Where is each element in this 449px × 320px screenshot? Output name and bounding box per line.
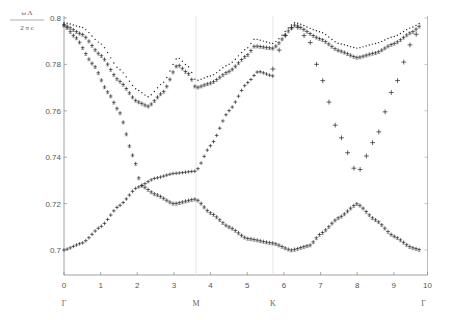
y-tick-label: 0.72 [45,200,61,209]
band-3 [62,23,421,252]
y-tick-label: 0.78 [45,60,61,69]
x-tick-label: 4 [208,281,213,290]
symmetry-point-label: M [192,299,199,308]
symmetry-point-label: Γ [421,299,426,308]
symmetry-point-label: K [270,299,276,308]
x-tick-label: 9 [392,281,397,290]
x-tick-label: 1 [98,281,103,290]
band-2 [271,25,419,172]
y-label-numerator: ω Λ [21,9,32,17]
x-tick-label: 5 [245,281,250,290]
y-axis-label: ω Λ 2 π c [10,9,44,32]
band-1 [62,70,274,252]
x-tick-label: 2 [135,281,140,290]
x-tick-label: 10 [423,281,432,290]
band-series [62,22,421,252]
x-tick-label: 3 [172,281,177,290]
symmetry-point-label: Γ [62,299,67,308]
x-tick-label: 6 [282,281,287,290]
plot-frame [64,16,428,275]
y-tick-label: 0.8 [50,14,62,23]
x-tick-label: 0 [62,281,67,290]
band-4 [62,23,421,108]
y-tick-label: 0.76 [45,107,61,116]
band-structure-chart: 0123456789100.70.720.740.760.780.8 ΓMKΓ … [0,0,449,320]
x-tick-label: 8 [355,281,360,290]
symmetry-lines [196,16,273,275]
x-tick-label: 7 [318,281,323,290]
symmetry-point-labels: ΓMKΓ [62,299,427,308]
y-tick-label: 0.74 [45,153,61,162]
y-label-denominator: 2 π c [20,24,34,32]
y-tick-label: 0.7 [50,246,62,255]
